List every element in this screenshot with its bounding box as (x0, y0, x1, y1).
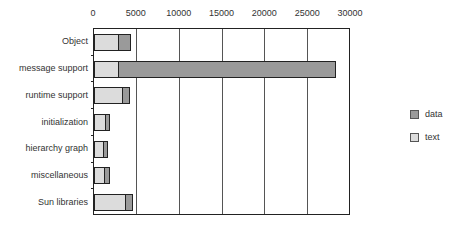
category-label: Sun libraries (38, 197, 88, 207)
bar-segment-text (94, 34, 119, 51)
x-tick-label: 20000 (252, 8, 277, 18)
bar-segment-data (104, 167, 110, 184)
legend-label-text: text (425, 132, 440, 142)
stacked-bar-chart: 050001000015000200002500030000 Objectmes… (0, 0, 465, 227)
gridline (307, 29, 308, 214)
category-label: Object (62, 36, 88, 46)
bar-segment-data (122, 87, 130, 104)
bar-segment-data (103, 141, 108, 158)
plot-area (93, 28, 350, 215)
category-label: hierarchy graph (25, 143, 88, 153)
x-tick-label: 10000 (166, 8, 191, 18)
x-tick-label: 15000 (209, 8, 234, 18)
x-tick-label: 25000 (295, 8, 320, 18)
category-label: runtime support (25, 90, 88, 100)
bar-segment-data (118, 61, 336, 78)
bar-segment-data (125, 194, 133, 211)
category-label: miscellaneous (31, 170, 88, 180)
bar-segment-data (105, 114, 110, 131)
legend-swatch-text (410, 133, 419, 142)
legend-swatch-data (410, 110, 419, 119)
gridline (136, 29, 137, 214)
legend-label-data: data (425, 109, 443, 119)
x-tick-label: 5000 (126, 8, 146, 18)
bar-segment-text (94, 194, 126, 211)
bar-segment-data (118, 34, 131, 51)
category-label: message support (19, 63, 88, 73)
legend-item-data: data (410, 108, 443, 120)
legend: data text (410, 108, 443, 154)
bar-segment-text (94, 61, 119, 78)
gridline (179, 29, 180, 214)
x-tick-label: 30000 (337, 8, 362, 18)
category-label: initialization (41, 117, 88, 127)
x-tick-label: 0 (90, 8, 95, 18)
gridline (222, 29, 223, 214)
gridline (264, 29, 265, 214)
bar-segment-text (94, 87, 123, 104)
legend-item-text: text (410, 131, 443, 143)
